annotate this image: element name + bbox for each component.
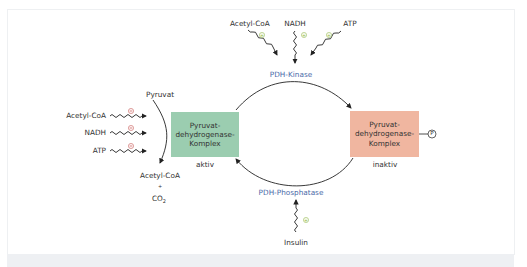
diagram-arrows: + + + + <box>0 0 527 267</box>
pdh-kinase-label: PDH-Kinase <box>270 71 312 78</box>
inactive-complex-line2: dehydrogenase- <box>355 129 414 138</box>
left-effector-atp: ATP <box>93 147 106 154</box>
left-effector-nadh: NADH <box>84 129 106 136</box>
top-effector-atp: ATP <box>343 20 356 27</box>
active-pdh-complex-box: Pyruvat- dehydrogenase- Komplex <box>171 112 239 157</box>
inactive-complex-line1: Pyruvat- <box>355 120 414 129</box>
pyruvate-conversion-arrow <box>153 100 167 163</box>
inactive-state-label: inaktiv <box>373 161 398 168</box>
insulin-label: Insulin <box>284 239 308 246</box>
active-complex-line2: dehydrogenase- <box>175 130 234 139</box>
left-effector-acetylcoa: Acetyl-CoA <box>66 112 106 119</box>
pdh-phosphatase-label: PDH-Phosphatase <box>259 189 324 196</box>
product-plus-label: + <box>158 184 162 189</box>
top-effector-acetylcoa: Acetyl-CoA <box>230 20 270 27</box>
insulin-wavy-arrow <box>295 200 298 232</box>
active-complex-line1: Pyruvat- <box>175 121 234 130</box>
svg-text:+: + <box>304 218 307 223</box>
inactive-pdh-complex-box: Pyruvat- dehydrogenase- Komplex <box>350 111 419 157</box>
phosphatase-arc-arrow <box>236 158 353 186</box>
svg-text:+: + <box>302 33 305 38</box>
nadh-kinase-wavy-arrow <box>294 31 297 63</box>
pyruvate-label: Pyruvat <box>146 91 174 98</box>
product-co2-label: CO2 <box>152 195 166 204</box>
svg-text:+: + <box>260 33 263 38</box>
nadh-inhibit-wavy-arrow <box>110 132 146 135</box>
active-complex-line3: Komplex <box>175 139 234 148</box>
kinase-arc-arrow <box>236 82 351 110</box>
acetylcoa-inhibit-wavy-arrow <box>110 115 146 118</box>
inactive-complex-line3: Komplex <box>355 139 414 148</box>
atp-inhibit-wavy-arrow <box>110 150 146 153</box>
svg-text:+: + <box>327 33 330 38</box>
active-state-label: aktiv <box>196 161 214 168</box>
phosphate-label: P <box>430 131 433 137</box>
top-effector-nadh: NADH <box>284 20 306 27</box>
product-acetylcoa-label: Acetyl-CoA <box>140 172 180 179</box>
atp-kinase-wavy-arrow <box>311 31 341 55</box>
